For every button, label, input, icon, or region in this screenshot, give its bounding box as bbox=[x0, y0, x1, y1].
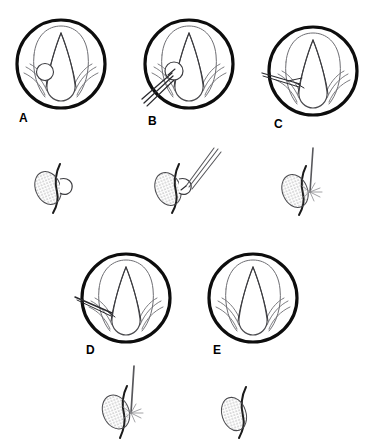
laryngoscopic-view-c bbox=[266, 24, 360, 118]
side-view-b bbox=[152, 148, 222, 222]
side-view-c bbox=[280, 148, 342, 224]
figure-root: A B bbox=[0, 0, 366, 444]
laryngoscopic-view-e bbox=[206, 251, 300, 345]
panel-label-c: C bbox=[274, 118, 283, 130]
laryngoscopic-view-d bbox=[79, 251, 173, 345]
panel-label-d: D bbox=[86, 344, 95, 356]
laser-probe-icon bbox=[131, 366, 134, 413]
cross-section-c bbox=[280, 148, 342, 224]
vocal-cord-lesion bbox=[37, 64, 54, 81]
panel-e: E bbox=[206, 251, 300, 345]
panel-label-a: A bbox=[19, 112, 28, 124]
lesion-cross-section bbox=[277, 171, 313, 212]
cross-section-a bbox=[30, 158, 90, 220]
laryngoscopic-view-b bbox=[142, 17, 236, 111]
cross-section-b bbox=[152, 148, 222, 222]
cross-section-e bbox=[218, 384, 266, 442]
polyp-loop bbox=[60, 179, 72, 195]
laser-probe-icon bbox=[310, 148, 313, 192]
lesion-cross-section bbox=[217, 394, 250, 434]
panel-d: D bbox=[79, 251, 173, 345]
side-view-e bbox=[218, 384, 266, 442]
panel-label-e: E bbox=[213, 344, 221, 356]
panel-b: B bbox=[142, 17, 236, 111]
panel-a: A bbox=[14, 17, 108, 111]
side-view-d bbox=[100, 366, 162, 444]
panel-c: C bbox=[266, 24, 360, 118]
laryngoscopic-view-a bbox=[14, 17, 108, 111]
cross-section-d bbox=[100, 366, 162, 444]
side-view-a bbox=[30, 158, 90, 220]
panel-label-b: B bbox=[148, 115, 157, 127]
